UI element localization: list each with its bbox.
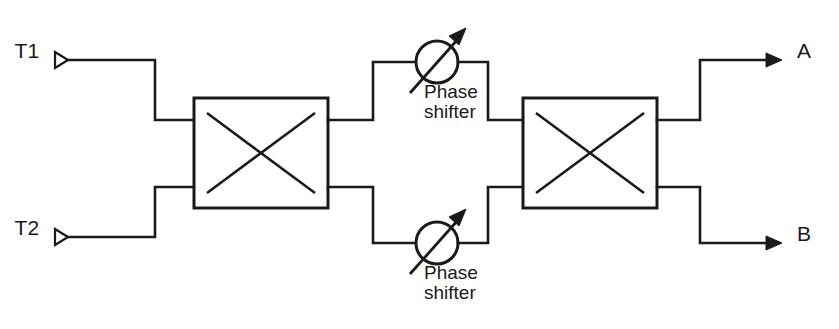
- phase-shifter-top-label-line1: Phase: [424, 82, 478, 102]
- diagram-canvas: T1 T2 A B: [0, 0, 839, 329]
- wire-t2-to-left-coupler: [68, 187, 194, 237]
- phase-shifter-bottom-arrow-head: [449, 209, 466, 226]
- wire-ps-bottom-to-right-coupler: [458, 187, 523, 243]
- wire-right-coupler-to-output-a: [657, 60, 772, 120]
- input-label-t1: T1: [15, 39, 40, 62]
- t1-input-port-icon: [55, 52, 68, 68]
- wire-t1-to-left-coupler: [68, 60, 194, 120]
- wire-left-coupler-to-ps-bottom: [328, 187, 416, 243]
- output-a-arrow-icon: [766, 53, 782, 67]
- phase-shifter-top-label-line2: shifter: [424, 102, 478, 122]
- phase-shifter-bottom-label: Phase shifter: [424, 263, 478, 303]
- wire-left-coupler-to-ps-top: [328, 62, 416, 120]
- t2-input-port-icon: [55, 229, 68, 245]
- phase-shifter-top-arrow-head: [449, 28, 466, 45]
- phase-shifter-bottom-label-line1: Phase: [424, 263, 478, 283]
- phase-shifter-top-label: Phase shifter: [424, 82, 478, 122]
- output-label-a: A: [797, 39, 811, 62]
- output-b-arrow-icon: [766, 236, 782, 250]
- input-label-t2: T2: [15, 216, 40, 239]
- phase-shifter-network-diagram: T1 T2 A B Phase: [0, 0, 839, 329]
- wire-right-coupler-to-output-b: [657, 187, 772, 243]
- output-label-b: B: [797, 222, 811, 245]
- phase-shifter-bottom-label-line2: shifter: [424, 283, 478, 303]
